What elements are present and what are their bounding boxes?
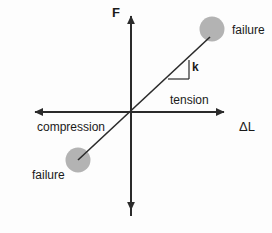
failure-marker-tension — [200, 17, 225, 42]
slope-triangle — [168, 60, 189, 79]
compression-region-label: compression — [37, 121, 105, 133]
force-extension-diagram: F ΔL k tension compression failure failu… — [0, 0, 272, 233]
x-axis-label: ΔL — [239, 120, 255, 133]
failure-label-tension: failure — [232, 24, 265, 36]
y-axis-label: F — [112, 6, 120, 19]
tension-region-label: tension — [170, 94, 209, 106]
failure-label-compression: failure — [32, 169, 65, 181]
slope-label: k — [192, 61, 199, 73]
